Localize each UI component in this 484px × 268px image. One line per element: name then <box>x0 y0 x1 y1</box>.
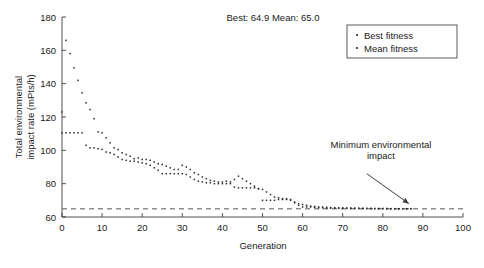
x-axis-title: Generation <box>239 240 286 251</box>
y-axis-title-line2: impact rate (mPts/h) <box>25 74 36 160</box>
x-tick-label: 40 <box>217 222 228 233</box>
legend-label-best-fitness: Best fitness <box>364 30 413 41</box>
y-axis-title: Total environmental impact rate (mPts/h) <box>13 74 36 160</box>
y-tick-label: 80 <box>45 178 56 189</box>
series-mean-fitness-points <box>61 40 411 210</box>
y-tick-label: 100 <box>40 145 56 156</box>
y-tick-label: 60 <box>45 212 56 223</box>
y-tick-label: 180 <box>40 12 56 23</box>
y-axis-title-line1: Total environmental <box>13 76 24 158</box>
legend-marker-best-fitness-icon <box>356 34 358 36</box>
annotation-text-line1: Minimum environmental <box>331 139 432 150</box>
x-tick-label: 100 <box>455 222 471 233</box>
legend-marker-mean-fitness-icon <box>356 47 358 49</box>
annotation-arrow-head-icon <box>402 198 408 204</box>
annotation-text-line2: impact <box>367 150 395 161</box>
x-tick-label: 50 <box>257 222 268 233</box>
chart-canvas: 0102030405060708090100608010012014016018… <box>0 0 484 268</box>
x-tick-label: 60 <box>297 222 308 233</box>
y-tick-label: 160 <box>40 45 56 56</box>
figure-container: 0102030405060708090100608010012014016018… <box>0 0 484 268</box>
legend-label-mean-fitness: Mean fitness <box>364 43 418 54</box>
y-tick-label: 120 <box>40 112 56 123</box>
x-tick-label: 80 <box>378 222 389 233</box>
x-tick-label: 20 <box>137 222 148 233</box>
x-tick-label: 0 <box>59 222 64 233</box>
annotation-minimum-environmental-impact: Minimum environmentalimpact <box>331 139 432 204</box>
y-tick-label: 140 <box>40 78 56 89</box>
annotation-arrow-line <box>367 174 409 204</box>
x-tick-label: 30 <box>177 222 188 233</box>
chart-legend[interactable]: Best fitness Mean fitness <box>347 25 457 58</box>
chart-title: Best: 64.9 Mean: 65.0 <box>227 12 320 23</box>
x-tick-label: 10 <box>97 222 108 233</box>
x-tick-label: 90 <box>418 222 429 233</box>
x-tick-label: 70 <box>337 222 348 233</box>
